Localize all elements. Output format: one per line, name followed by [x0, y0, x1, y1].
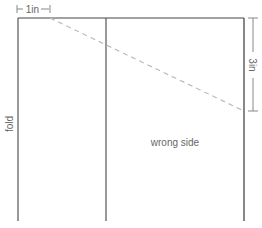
- wrong-side-label: wrong side: [150, 137, 200, 148]
- measure-1in: 1in: [17, 4, 50, 15]
- pattern-diagram: 1in 3in fold wrong side: [0, 0, 262, 228]
- measure-3in: 3in: [247, 18, 258, 111]
- measure-1in-label: 1in: [26, 4, 39, 15]
- measure-3in-label: 3in: [247, 58, 258, 71]
- fold-label: fold: [4, 116, 15, 132]
- dashed-cut-line: [50, 18, 244, 111]
